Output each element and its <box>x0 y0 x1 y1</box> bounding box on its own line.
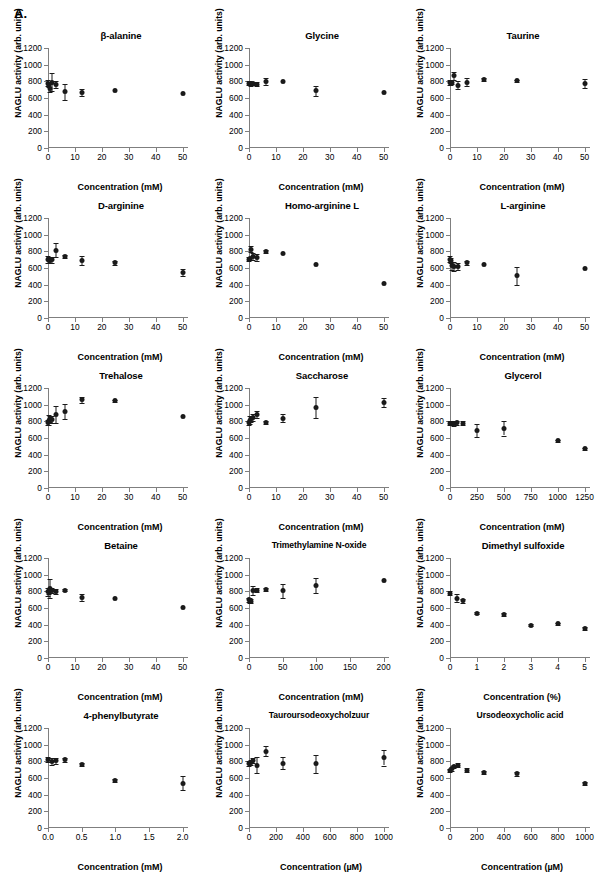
data-point <box>280 79 285 84</box>
y-tick-label: 600 <box>28 264 42 272</box>
y-axis-label: NAGLU activity (arb. units) <box>214 517 224 629</box>
y-tick-label: 0 <box>439 144 444 152</box>
y-axis-label: NAGLU activity (arb. units) <box>13 347 23 459</box>
data-point <box>314 583 319 588</box>
error-bar-cap <box>314 593 319 594</box>
y-tick-mark <box>245 811 249 812</box>
y-tick-mark <box>44 301 48 302</box>
y-tick-label: 0 <box>37 654 42 662</box>
plot-area: 020040060080010001200025050075010001250 <box>450 388 590 488</box>
error-bar-cap <box>79 265 84 266</box>
error-bar-cap <box>474 424 479 425</box>
x-tick-label: 10 <box>70 323 79 331</box>
y-tick-mark <box>446 778 450 779</box>
data-point <box>314 88 319 93</box>
y-tick-mark <box>446 131 450 132</box>
y-tick-label: 0 <box>238 314 243 322</box>
error-bar-cap <box>464 86 469 87</box>
y-tick-label: 1000 <box>23 230 42 238</box>
y-tick-mark <box>44 115 48 116</box>
x-tick-label: 40 <box>553 323 562 331</box>
chart-title: Glycine <box>243 30 401 41</box>
data-point <box>454 596 459 601</box>
x-tick-label: 150 <box>343 663 357 671</box>
y-tick-label: 400 <box>229 450 243 458</box>
data-point <box>79 397 84 402</box>
error-bar-cap <box>79 601 84 602</box>
chart-panel-homo-arginine-l: Homo-arginine LNAGLU activity (arb. unit… <box>201 192 402 362</box>
error-bar-cap <box>381 750 386 751</box>
x-tick-label: 50 <box>278 663 287 671</box>
x-tick-label: 2 <box>502 663 507 671</box>
x-tick-label: 2.0 <box>177 833 189 841</box>
x-tick-label: 50 <box>178 153 187 161</box>
y-tick-mark <box>245 285 249 286</box>
y-tick-label: 1000 <box>23 60 42 68</box>
y-tick-mark <box>446 745 450 746</box>
y-axis-line <box>249 388 250 488</box>
y-axis-label: NAGLU activity (arb. units) <box>214 687 224 799</box>
error-bar-cap <box>255 418 260 419</box>
x-tick-label: 600 <box>524 833 538 841</box>
error-bar-cap <box>263 756 268 757</box>
y-tick-label: 600 <box>229 774 243 782</box>
data-point <box>54 248 59 253</box>
y-tick-mark <box>245 438 249 439</box>
x-tick-label: 0 <box>448 833 453 841</box>
x-axis-label: Concentration (mM) <box>241 352 401 362</box>
y-tick-mark <box>245 795 249 796</box>
y-tick-label: 400 <box>430 620 444 628</box>
y-tick-mark <box>44 795 48 796</box>
y-tick-mark <box>245 558 249 559</box>
plot-area: 02004006008001000120001020304050 <box>48 558 188 658</box>
error-bar-cap <box>50 263 55 264</box>
y-tick-mark <box>245 65 249 66</box>
error-bar-cap <box>255 261 260 262</box>
y-tick-mark <box>44 388 48 389</box>
x-tick-label: 20 <box>97 493 106 501</box>
y-tick-label: 1200 <box>425 554 444 562</box>
x-tick-label: 20 <box>298 153 307 161</box>
x-axis-label: Concentration (mM) <box>241 522 401 532</box>
y-tick-label: 400 <box>28 280 42 288</box>
x-tick-label: 200 <box>377 663 391 671</box>
x-tick-label: 0 <box>46 663 51 671</box>
data-point <box>582 81 587 86</box>
x-tick-label: 1 <box>475 663 480 671</box>
x-tick-label: 50 <box>580 153 589 161</box>
y-tick-mark <box>245 235 249 236</box>
data-point <box>180 91 185 96</box>
chart-title: β-alanine <box>42 30 200 41</box>
x-tick-label: 400 <box>497 833 511 841</box>
y-tick-mark <box>446 115 450 116</box>
y-tick-label: 600 <box>28 434 42 442</box>
y-tick-mark <box>245 608 249 609</box>
y-axis-label: NAGLU activity (arb. units) <box>415 687 425 799</box>
data-point <box>474 428 479 433</box>
y-axis-label: NAGLU activity (arb. units) <box>13 687 23 799</box>
data-point <box>280 251 285 256</box>
y-tick-label: 800 <box>430 417 444 425</box>
y-axis-label: NAGLU activity (arb. units) <box>13 177 23 289</box>
data-point <box>62 588 67 593</box>
y-tick-mark <box>446 761 450 762</box>
y-tick-label: 800 <box>28 247 42 255</box>
plot-area: 0200400600800100012000.00.51.01.52.0 <box>48 728 188 828</box>
y-tick-mark <box>44 608 48 609</box>
error-bar-cap <box>180 776 185 777</box>
x-axis-line <box>450 657 590 658</box>
x-tick-label: 1.0 <box>109 833 121 841</box>
y-axis-label: NAGLU activity (arb. units) <box>415 177 425 289</box>
data-point <box>79 258 84 263</box>
y-tick-label: 1000 <box>425 230 444 238</box>
data-point <box>555 438 560 443</box>
chart-panel-d-arginine: D-arginineNAGLU activity (arb. units)Con… <box>0 192 201 362</box>
data-point <box>54 412 59 417</box>
y-tick-label: 600 <box>229 434 243 442</box>
x-axis-line <box>450 487 590 488</box>
error-bar-cap <box>62 84 67 85</box>
error-bar-cap <box>54 423 59 424</box>
y-axis-line <box>48 218 49 318</box>
x-tick-label: 30 <box>526 153 535 161</box>
x-tick-label: 40 <box>553 153 562 161</box>
